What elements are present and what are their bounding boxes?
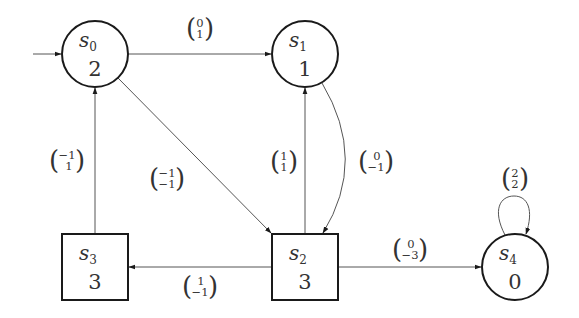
- edge-label-s2-s1: ( ) 1 1: [270, 146, 298, 176]
- node-s1[interactable]: s1 1: [272, 21, 338, 87]
- right-paren: ): [75, 145, 85, 175]
- edge-label-s0-s2: ( ) −1 −1: [149, 163, 185, 193]
- edge-label-s2-s4: ( ) 0 −3: [392, 234, 428, 264]
- right-paren: ): [418, 234, 428, 264]
- node-s4[interactable]: s4 0: [482, 234, 548, 300]
- vector-bottom: 2: [511, 177, 518, 191]
- node-s3[interactable]: s3 3: [62, 234, 128, 300]
- node-s2[interactable]: s2 3: [272, 234, 338, 300]
- edge-s4-self-loop: [498, 196, 529, 235]
- right-paren: ): [204, 13, 214, 43]
- vector-bottom: −1: [192, 285, 209, 299]
- vector-bottom: 1: [280, 160, 287, 174]
- edge-label-s2-s3: ( ) 1 −1: [182, 271, 218, 301]
- edge-label-s3-s0: ( ) −1 1: [49, 145, 85, 175]
- node-value: 3: [298, 270, 311, 294]
- vector-bottom: −1: [159, 177, 176, 191]
- right-paren: ): [175, 163, 185, 193]
- edge-label-s0-s1: ( ) 0 1: [186, 13, 214, 43]
- edge-label-s4-self: ( ) 2 2: [501, 163, 529, 193]
- edge-s0-s2: [118, 78, 271, 233]
- node-value: 3: [88, 270, 101, 294]
- vector-bottom: 1: [65, 159, 72, 173]
- vector-bottom: 1: [196, 27, 203, 41]
- right-paren: ): [288, 146, 298, 176]
- vector-bottom: −3: [402, 248, 419, 262]
- node-value: 1: [298, 57, 311, 81]
- left-paren: (: [270, 146, 280, 176]
- game-graph: s0 2 s1 1 s2 3 s3 3 s4 0 ( ) 0 1 ( ) −1 …: [0, 0, 579, 318]
- right-paren: ): [208, 271, 218, 301]
- edge-s1-s2: [322, 83, 345, 233]
- left-paren: (: [501, 163, 511, 193]
- left-paren: (: [186, 13, 196, 43]
- edge-label-s1-s2: ( ) 0 −1: [358, 146, 394, 176]
- right-paren: ): [519, 163, 529, 193]
- node-s0[interactable]: s0 2: [62, 21, 128, 87]
- node-value: 0: [508, 270, 521, 294]
- node-value: 2: [88, 57, 101, 81]
- right-paren: ): [384, 146, 394, 176]
- vector-bottom: −1: [368, 160, 385, 174]
